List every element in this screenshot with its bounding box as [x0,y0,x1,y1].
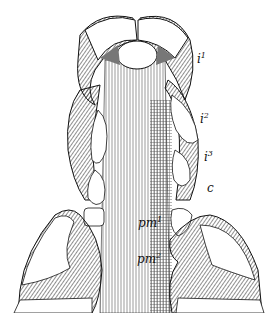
label-i2: i2 [200,112,209,125]
label-c: c [207,182,214,194]
label-pm2: pm2 [137,252,161,265]
jaw-illustration [0,0,278,313]
label-pm1: pm1 [138,216,162,229]
label-i3: i3 [204,150,213,163]
label-i1: i1 [197,52,206,65]
